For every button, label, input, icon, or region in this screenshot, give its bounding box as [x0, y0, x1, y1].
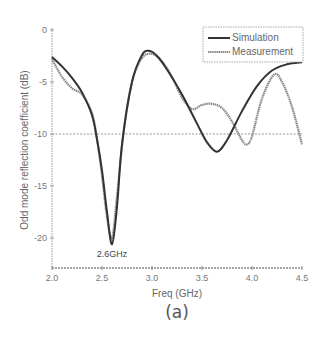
series-line-measurement — [52, 54, 302, 239]
legend: Simulation Measurement — [203, 27, 303, 62]
y-tick-label: 0 — [42, 25, 47, 35]
y-ticks: 0-5-10-15-20 — [34, 25, 54, 243]
legend-label-measurement: Measurement — [232, 46, 293, 57]
x-tick-label: 4.0 — [246, 273, 259, 283]
x-tick-label: 3.5 — [196, 273, 209, 283]
series-line-simulation — [52, 51, 302, 245]
x-tick-label: 2.5 — [96, 273, 109, 283]
x-tick-label: 2.0 — [46, 273, 59, 283]
legend-label-simulation: Simulation — [232, 32, 279, 43]
y-tick-label: -15 — [34, 181, 47, 191]
y-axis-label: Odd mode reflection coefficient (dB) — [19, 70, 30, 229]
series-group — [52, 51, 302, 245]
chart: 2.02.53.03.54.04.5 0-5-10-15-20 2.6GHz S… — [0, 0, 329, 338]
x-tick-label: 4.5 — [296, 273, 309, 283]
figure-caption: (a) — [165, 302, 189, 322]
resonance-annotation: 2.6GHz — [97, 249, 128, 259]
x-axis-label: Freq (GHz) — [152, 288, 202, 299]
y-tick-label: -10 — [34, 129, 47, 139]
y-tick-label: -5 — [39, 77, 47, 87]
y-tick-label: -20 — [34, 233, 47, 243]
x-tick-label: 3.0 — [146, 273, 159, 283]
